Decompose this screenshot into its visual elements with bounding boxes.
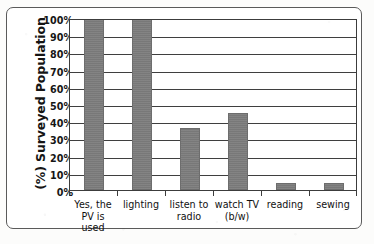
y-axis-tick-label: 20% bbox=[37, 152, 73, 163]
x-axis-tick-label: watch TV (b/w) bbox=[213, 199, 261, 222]
y-axis-tick-label: 100% bbox=[37, 15, 73, 26]
x-axis-tick-marks bbox=[69, 191, 357, 197]
gridline bbox=[70, 72, 356, 73]
y-axis-tick-label: 30% bbox=[37, 135, 73, 146]
y-axis-tick-labels: 0%10%20%30%40%50%60%70%80%90%100% bbox=[37, 20, 73, 204]
x-axis-tick-label: lighting bbox=[117, 199, 165, 211]
y-axis-tick-label: 60% bbox=[37, 83, 73, 94]
y-axis-tick-label: 40% bbox=[37, 118, 73, 129]
chart-outer-frame: (%) Surveyed Population 0%10%20%30%40%50… bbox=[6, 7, 362, 229]
gridline bbox=[70, 106, 356, 107]
x-axis-tick bbox=[165, 191, 166, 196]
bar bbox=[180, 128, 200, 190]
y-axis-tick-label: 80% bbox=[37, 49, 73, 60]
x-axis-tick bbox=[261, 191, 262, 196]
x-axis-tick bbox=[213, 191, 214, 196]
plot-area bbox=[69, 19, 357, 191]
gridline bbox=[70, 140, 356, 141]
y-axis-tick-label: 50% bbox=[37, 101, 73, 112]
gridline bbox=[70, 89, 356, 90]
gridline bbox=[70, 123, 356, 124]
x-axis-tick-label: listen to radio bbox=[165, 199, 213, 222]
bar bbox=[276, 183, 296, 190]
y-axis-tick-label: 0% bbox=[37, 187, 73, 198]
figure-root: (%) Surveyed Population 0%10%20%30%40%50… bbox=[0, 0, 374, 244]
x-axis-tick-label: Yes, the PV is used bbox=[69, 199, 117, 234]
y-axis-tick-label: 70% bbox=[37, 66, 73, 77]
gridline bbox=[70, 158, 356, 159]
y-axis-tick-label: 90% bbox=[37, 32, 73, 43]
gridline bbox=[70, 37, 356, 38]
bar bbox=[132, 19, 152, 190]
gridline bbox=[70, 54, 356, 55]
x-axis-tick bbox=[356, 191, 357, 196]
bar bbox=[324, 183, 344, 190]
x-axis-tick bbox=[309, 191, 310, 196]
x-axis-tick bbox=[69, 191, 70, 196]
x-axis-tick bbox=[117, 191, 118, 196]
bar bbox=[84, 19, 104, 190]
x-axis-tick-label: reading bbox=[261, 199, 309, 211]
gridline bbox=[70, 175, 356, 176]
x-axis-tick-labels: Yes, the PV is usedlightinglisten to rad… bbox=[69, 199, 357, 235]
bar bbox=[228, 113, 248, 190]
y-axis-tick-label: 10% bbox=[37, 169, 73, 180]
x-axis-tick-label: sewing bbox=[309, 199, 357, 211]
